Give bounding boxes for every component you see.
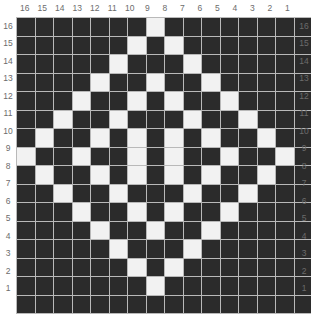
grid-cell[interactable] bbox=[17, 55, 35, 73]
grid-cell[interactable] bbox=[221, 18, 239, 36]
grid-cell[interactable] bbox=[91, 55, 109, 73]
grid-cell[interactable] bbox=[239, 111, 257, 129]
grid-cell[interactable] bbox=[128, 277, 146, 295]
grid-cell[interactable] bbox=[239, 148, 257, 166]
grid-cell[interactable] bbox=[221, 166, 239, 184]
grid-cell[interactable] bbox=[165, 166, 183, 184]
grid-cell[interactable] bbox=[73, 74, 91, 92]
grid-cell[interactable] bbox=[165, 37, 183, 55]
grid-cell[interactable] bbox=[36, 37, 54, 55]
grid-cell[interactable] bbox=[54, 92, 72, 110]
grid-cell[interactable] bbox=[91, 222, 109, 240]
grid-cell[interactable] bbox=[165, 92, 183, 110]
grid-cell[interactable] bbox=[147, 37, 165, 55]
grid-cell[interactable] bbox=[221, 55, 239, 73]
grid-cell[interactable] bbox=[202, 74, 220, 92]
grid-cell[interactable] bbox=[91, 148, 109, 166]
grid-cell[interactable] bbox=[184, 111, 202, 129]
grid-cell[interactable] bbox=[258, 148, 276, 166]
grid-cell[interactable] bbox=[36, 74, 54, 92]
grid-cell[interactable] bbox=[128, 55, 146, 73]
grid-cell[interactable] bbox=[17, 296, 35, 314]
grid-cell[interactable] bbox=[54, 240, 72, 258]
grid-cell[interactable] bbox=[17, 129, 35, 147]
grid-cell[interactable] bbox=[17, 18, 35, 36]
grid-cell[interactable] bbox=[128, 111, 146, 129]
grid-cell[interactable] bbox=[165, 74, 183, 92]
grid-cell[interactable] bbox=[276, 92, 294, 110]
grid-cell[interactable] bbox=[165, 55, 183, 73]
grid-cell[interactable] bbox=[276, 259, 294, 277]
grid-cell[interactable] bbox=[165, 18, 183, 36]
grid-cell[interactable] bbox=[276, 166, 294, 184]
grid-cell[interactable] bbox=[110, 203, 128, 221]
grid-cell[interactable] bbox=[54, 148, 72, 166]
grid-cell[interactable] bbox=[258, 259, 276, 277]
grid-cell[interactable] bbox=[239, 240, 257, 258]
grid-cell[interactable] bbox=[110, 129, 128, 147]
grid-cell[interactable] bbox=[202, 240, 220, 258]
grid-cell[interactable] bbox=[258, 277, 276, 295]
grid-cell[interactable] bbox=[110, 259, 128, 277]
grid-cell[interactable] bbox=[202, 277, 220, 295]
grid-cell[interactable] bbox=[202, 296, 220, 314]
grid-cell[interactable] bbox=[147, 111, 165, 129]
grid-cell[interactable] bbox=[91, 129, 109, 147]
grid-cell[interactable] bbox=[91, 240, 109, 258]
grid-cell[interactable] bbox=[36, 166, 54, 184]
grid-cell[interactable] bbox=[36, 111, 54, 129]
grid-cell[interactable] bbox=[17, 185, 35, 203]
grid-cell[interactable] bbox=[17, 222, 35, 240]
grid-cell[interactable] bbox=[165, 240, 183, 258]
grid-cell[interactable] bbox=[221, 92, 239, 110]
grid-cell[interactable] bbox=[202, 37, 220, 55]
grid-cell[interactable] bbox=[258, 203, 276, 221]
grid-cell[interactable] bbox=[165, 111, 183, 129]
grid-cell[interactable] bbox=[276, 74, 294, 92]
grid-cell[interactable] bbox=[258, 166, 276, 184]
grid-cell[interactable] bbox=[165, 222, 183, 240]
grid-cell[interactable] bbox=[184, 166, 202, 184]
grid-cell[interactable] bbox=[147, 55, 165, 73]
grid-cell[interactable] bbox=[258, 37, 276, 55]
grid-cell[interactable] bbox=[258, 185, 276, 203]
grid-cell[interactable] bbox=[54, 259, 72, 277]
grid-cell[interactable] bbox=[147, 148, 165, 166]
grid-cell[interactable] bbox=[276, 18, 294, 36]
grid-cell[interactable] bbox=[73, 296, 91, 314]
grid-cell[interactable] bbox=[54, 222, 72, 240]
grid-cell[interactable] bbox=[258, 240, 276, 258]
grid-cell[interactable] bbox=[36, 259, 54, 277]
grid-cell[interactable] bbox=[128, 92, 146, 110]
grid-cell[interactable] bbox=[258, 129, 276, 147]
grid-cell[interactable] bbox=[239, 203, 257, 221]
grid-cell[interactable] bbox=[276, 240, 294, 258]
grid-cell[interactable] bbox=[128, 148, 146, 166]
grid-cell[interactable] bbox=[128, 222, 146, 240]
grid-cell[interactable] bbox=[221, 74, 239, 92]
grid-cell[interactable] bbox=[165, 185, 183, 203]
grid-cell[interactable] bbox=[184, 74, 202, 92]
grid-cell[interactable] bbox=[221, 296, 239, 314]
grid-cell[interactable] bbox=[91, 74, 109, 92]
grid-cell[interactable] bbox=[17, 166, 35, 184]
grid-cell[interactable] bbox=[202, 222, 220, 240]
grid-cell[interactable] bbox=[73, 37, 91, 55]
grid-cell[interactable] bbox=[36, 148, 54, 166]
grid-cell[interactable] bbox=[165, 277, 183, 295]
grid-cell[interactable] bbox=[147, 18, 165, 36]
grid-cell[interactable] bbox=[36, 296, 54, 314]
grid-cell[interactable] bbox=[91, 166, 109, 184]
grid-cell[interactable] bbox=[110, 240, 128, 258]
grid-cell[interactable] bbox=[165, 203, 183, 221]
grid-cell[interactable] bbox=[147, 129, 165, 147]
grid-cell[interactable] bbox=[276, 37, 294, 55]
grid-cell[interactable] bbox=[202, 55, 220, 73]
grid-cell[interactable] bbox=[91, 185, 109, 203]
grid-cell[interactable] bbox=[17, 148, 35, 166]
grid-cell[interactable] bbox=[276, 222, 294, 240]
grid-cell[interactable] bbox=[147, 166, 165, 184]
grid-cell[interactable] bbox=[147, 259, 165, 277]
grid-cell[interactable] bbox=[128, 18, 146, 36]
grid-cell[interactable] bbox=[128, 259, 146, 277]
